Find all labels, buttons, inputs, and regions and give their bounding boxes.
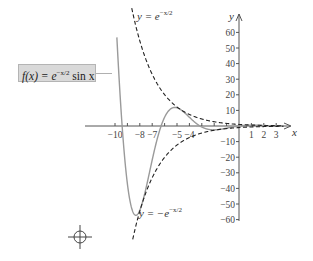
upper-label-exponent: −x/2 <box>160 9 173 17</box>
series-upper-envelope <box>132 8 284 126</box>
upper-label-lhs: y = e <box>137 10 160 22</box>
y-tick-label: 60 <box>226 28 236 38</box>
y-tick-label: −20 <box>220 153 235 163</box>
x-axis-label: x <box>291 126 297 138</box>
crosshair-target-icon[interactable] <box>68 225 92 249</box>
y-axis-label: y <box>228 10 234 22</box>
y-tick-label: −40 <box>220 184 235 194</box>
y-tick-label: 20 <box>226 90 236 100</box>
x-tick-label: −4 <box>184 130 194 140</box>
x-tick-label: −5 <box>172 130 182 140</box>
y-tick-label: −60 <box>220 215 235 225</box>
y-tick-label: 50 <box>226 44 236 54</box>
chart-canvas: xy−10−8−7−5−4123605040302010−10−20−30−40… <box>0 0 313 261</box>
lower-label-lhs: y = −e <box>139 207 169 219</box>
y-tick-label: 10 <box>226 106 236 116</box>
lower-label-exponent: −x/2 <box>169 206 182 214</box>
label-leader-line <box>96 73 112 74</box>
y-tick-label: −30 <box>220 168 235 178</box>
y-tick-label: 40 <box>226 59 236 69</box>
y-tick-label: −10 <box>220 137 235 147</box>
upper-envelope-label: y = e−x/2 <box>137 9 173 22</box>
y-tick-label: −50 <box>220 200 235 210</box>
x-tick-label: −10 <box>108 130 123 140</box>
curves <box>117 8 284 239</box>
fbox-rhs: sin x <box>69 70 94 82</box>
x-tick-label: 2 <box>261 130 266 140</box>
x-tick-label: 1 <box>249 130 254 140</box>
fbox-exponent: −x/2 <box>57 69 70 77</box>
fbox-lhs: f(x) = e <box>22 70 57 82</box>
x-tick-label: −8 <box>135 130 145 140</box>
lower-envelope-label: y = −e−x/2 <box>139 206 182 219</box>
x-tick-label: −7 <box>147 130 157 140</box>
series-lower-envelope <box>133 126 284 239</box>
y-tick-label: 30 <box>226 75 236 85</box>
x-tick-label: 3 <box>274 130 279 140</box>
function-label-box: f(x) = e−x/2 sin x <box>18 64 96 82</box>
